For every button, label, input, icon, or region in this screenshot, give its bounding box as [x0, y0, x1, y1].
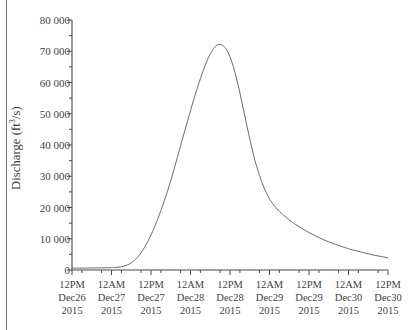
plot-area: [0, 0, 414, 330]
axis-tick-marks: [67, 20, 388, 275]
discharge-line-series: [72, 44, 388, 268]
chart-figure: Discharge (ft3/s) 80 00070 00060 00050 0…: [0, 0, 414, 330]
